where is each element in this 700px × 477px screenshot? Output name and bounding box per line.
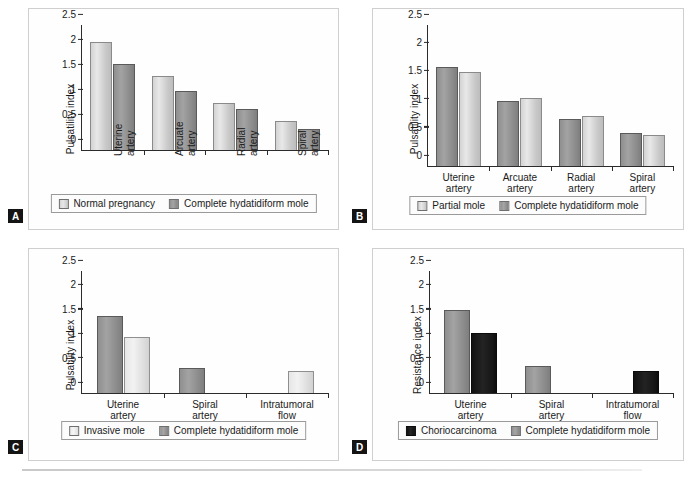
x-tick-line-1: Radial [567, 172, 595, 183]
bar-choriocarcinoma [633, 371, 659, 393]
legend-swatch-icon [417, 201, 427, 211]
x-tick-line-1: Spiral [539, 399, 565, 410]
legend-swatch-icon [169, 199, 179, 209]
y-tick-b-2.5: 2.5 [408, 9, 428, 20]
x-tick-line-2: artery [630, 183, 656, 194]
x-tick-line-2: artery [458, 410, 484, 421]
bar-partial-mole [459, 72, 481, 166]
bar-complete-hydatidiform-mole [436, 67, 458, 166]
x-tick-labels-b: Uterine artery Arcuate artery Radial art… [428, 166, 673, 194]
legend-item-complete-hydatidiform-mole[interactable]: Complete hydatidiform mole [499, 200, 639, 211]
x-tick-line-1: Uterine [113, 124, 124, 156]
bar-group-spiral-artery [164, 271, 246, 393]
bar-complete-hydatidiform-mole [179, 368, 205, 393]
x-tick-line-1: Uterine [454, 399, 486, 410]
y-tick-c-2: 2 [70, 279, 82, 290]
bar-groups-b [428, 25, 673, 166]
y-tick-a-0: 0 [70, 134, 82, 145]
x-tick-line-2: artery [192, 410, 218, 421]
bar-complete-hydatidiform-mole [525, 366, 551, 393]
panel-letter-a: A [8, 209, 23, 223]
x-tick-line-2: artery [125, 130, 136, 156]
x-tick-line-2: artery [309, 130, 320, 156]
legend-item-partial-mole[interactable]: Partial mole [417, 200, 485, 211]
y-tick-c-0.5: 0.5 [62, 352, 82, 363]
x-tick-label: Uterine artery [428, 172, 489, 194]
x-tick-line-1: Intratumoral [260, 399, 313, 410]
bar-group-uterine-artery [430, 271, 511, 393]
bar-partial-mole [520, 98, 542, 166]
x-tick-line-2: artery [248, 130, 259, 156]
x-separator [673, 393, 674, 398]
y-tick-b-1.5: 1.5 [408, 65, 428, 76]
legend-d: Choriocarcinoma Complete hydatidiform mo… [398, 421, 658, 440]
y-tick-c-0: 0 [70, 377, 82, 388]
legend-swatch-icon [499, 201, 509, 211]
legend-item-invasive-mole[interactable]: Invasive mole [69, 425, 145, 436]
legend-label: Complete hydatidiform mole [184, 198, 309, 209]
bar-complete-hydatidiform-mole [97, 316, 123, 393]
x-tick-line-2: flow [278, 410, 296, 421]
y-tick-d-0: 0 [418, 377, 430, 388]
bar-normal-pregnancy [213, 103, 235, 151]
chart-panel-c: C Pulsatility index 0 0.5 1 1.5 2 2.5 [28, 248, 339, 461]
x-tick-line-1: Spiral [192, 399, 218, 410]
bar-group-radial-artery [551, 25, 612, 166]
legend-label: Complete hydatidiform mole [174, 425, 299, 436]
x-tick-line-1: Uterine [443, 172, 475, 183]
x-tick-line-2: flow [624, 410, 642, 421]
legend-c: Invasive mole Complete hydatidiform mole [61, 421, 307, 440]
legend-swatch-icon [58, 199, 68, 209]
bar-complete-hydatidiform-mole [559, 119, 581, 166]
chart-panel-a: A Pulsatility index 0 0.5 1 1.5 2 2.5 [28, 8, 339, 230]
legend-b: Partial mole Complete hydatidiform mole [409, 196, 646, 215]
panel-letter-b: B [352, 209, 367, 223]
y-tick-c-2.5: 2.5 [62, 255, 82, 266]
x-tick-line-1: Uterine [107, 399, 139, 410]
panel-letter-c: C [8, 440, 23, 454]
x-tick-line-2: artery [507, 183, 533, 194]
legend-label: Invasive mole [84, 425, 145, 436]
x-tick-line-2: artery [446, 183, 472, 194]
x-tick-label: Arcuate artery [489, 172, 550, 194]
bar-invasive-mole [124, 337, 150, 393]
y-tick-a-1: 1 [70, 84, 82, 95]
x-tick-line-2: artery [539, 410, 565, 421]
x-tick-line-2: artery [110, 410, 136, 421]
bar-partial-mole [582, 116, 604, 166]
chart-d: Resistance index 0 0.5 1 1.5 2 2.5 [373, 249, 683, 460]
bar-normal-pregnancy [152, 76, 174, 150]
x-separator [328, 393, 329, 398]
chart-panel-d: D Resistance index 0 0.5 1 1.5 2 2.5 [372, 248, 684, 461]
chart-panel-b: B Pulsatility index 0 0.5 1 1.5 2 2.5 [372, 8, 684, 230]
bar-choriocarcinoma [471, 333, 497, 393]
chart-a: Pulsatility index 0 0.5 1 1.5 2 2.5 [29, 9, 338, 229]
y-tick-a-1.5: 1.5 [62, 59, 82, 70]
legend-item-normal-pregnancy[interactable]: Normal pregnancy [58, 198, 155, 209]
x-tick-line-2: artery [568, 183, 594, 194]
y-tick-a-0.5: 0.5 [62, 109, 82, 120]
bar-normal-pregnancy [90, 42, 112, 151]
legend-item-choriocarcinoma[interactable]: Choriocarcinoma [406, 425, 497, 436]
y-tick-b-1: 1 [416, 93, 428, 104]
x-separator [673, 166, 674, 171]
x-tick-line-1: Spiral [297, 130, 308, 156]
y-tick-b-0.5: 0.5 [408, 121, 428, 132]
x-tick-line-1: Arcuate [174, 122, 185, 156]
x-tick-label: Spiral artery [511, 399, 592, 421]
y-tick-d-0.5: 0.5 [410, 352, 430, 363]
y-tick-d-1: 1 [418, 328, 430, 339]
legend-label: Normal pregnancy [73, 198, 155, 209]
legend-item-complete-hydatidiform-mole[interactable]: Complete hydatidiform mole [159, 425, 299, 436]
x-tick-label: Intratumoral flow [592, 399, 673, 421]
x-tick-labels-d: Uterine artery Spiral artery Intratumora… [430, 393, 673, 421]
bar-invasive-mole [288, 371, 314, 393]
bar-group-intratumoral-flow [592, 271, 673, 393]
legend-item-complete-hydatidiform-mole[interactable]: Complete hydatidiform mole [169, 198, 309, 209]
x-tick-label: Uterine artery [430, 399, 511, 421]
y-tick-d-2: 2 [418, 279, 430, 290]
legend-item-complete-hydatidiform-mole[interactable]: Complete hydatidiform mole [511, 425, 651, 436]
bar-complete-hydatidiform-mole [497, 101, 519, 166]
legend-swatch-icon [159, 426, 169, 436]
y-tick-d-2.5: 2.5 [410, 255, 430, 266]
